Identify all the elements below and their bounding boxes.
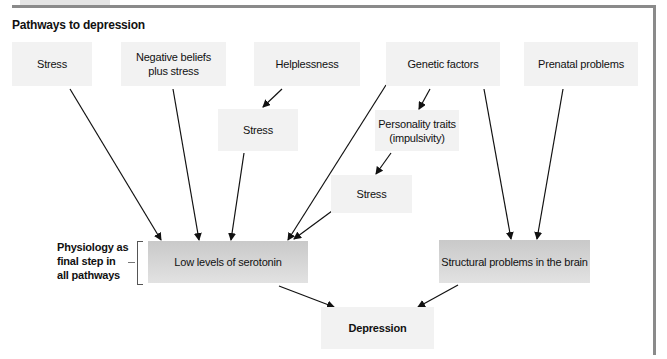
node-low-serotonin: Low levels of serotonin (148, 241, 308, 283)
node-stress-lower: Stress (331, 175, 412, 213)
bracket-tick (128, 262, 135, 263)
node-helplessness: Helplessness (254, 42, 360, 86)
arrow-genetic-to-personality (419, 89, 430, 109)
side-label-line: final step in (57, 254, 128, 268)
node-label-line2: (impulsivity) (389, 131, 444, 145)
node-negative-beliefs: Negative beliefs plus stress (121, 42, 226, 86)
node-label-line1: Personality traits (378, 117, 456, 131)
node-label: Helplessness (275, 57, 338, 71)
node-label: Low levels of serotonin (174, 255, 281, 269)
arrow-negbeliefs-to-serotonin (173, 89, 199, 240)
node-prenatal-problems: Prenatal problems (524, 42, 638, 86)
node-stress-top: Stress (12, 42, 92, 86)
arrow-genetic-to-structural (484, 89, 511, 239)
arrow-helplessness-to-stress-mid (263, 89, 282, 107)
arrow-structural-to-depression (418, 285, 458, 307)
node-depression: Depression (321, 307, 434, 349)
node-label: Stress (357, 187, 387, 201)
side-label-line: all pathways (57, 268, 128, 282)
node-label: Depression (349, 321, 407, 335)
node-label: Prenatal problems (538, 57, 624, 71)
arrow-genetic-to-serotonin (288, 85, 386, 240)
node-genetic-factors: Genetic factors (386, 42, 500, 86)
node-label: Stress (37, 57, 67, 71)
arrow-serotonin-to-depression (279, 286, 334, 307)
node-stress-mid: Stress (218, 109, 298, 151)
arrow-stress-mid-to-serotonin (231, 153, 244, 240)
arrow-personality-to-stress-lower (376, 153, 391, 174)
arrow-stress-to-serotonin (70, 89, 161, 240)
node-structural-problems: Structural problems in the brain (439, 240, 590, 283)
side-label-physiology: Physiology as final step in all pathways (57, 240, 128, 282)
arrow-prenatal-to-structural (537, 89, 563, 239)
node-label: Structural problems in the brain (441, 255, 587, 269)
node-label: Stress (243, 123, 273, 137)
node-personality-traits: Personality traits (impulsivity) (375, 110, 459, 151)
bracket (137, 241, 143, 285)
side-label-line: Physiology as (57, 240, 128, 254)
arrow-stress-lower-to-serotonin (294, 211, 332, 239)
node-label: Negative beliefs plus stress (134, 50, 214, 78)
node-label: Genetic factors (408, 57, 479, 71)
